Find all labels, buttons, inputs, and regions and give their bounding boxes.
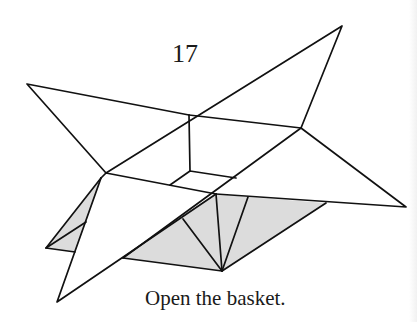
top-wing-edge (106, 26, 342, 173)
left-wing-edge (27, 84, 189, 173)
step-number: 17 (172, 41, 198, 67)
right-wing-edge (216, 128, 406, 207)
inner-back-corner (189, 115, 190, 171)
back-rim-edge (189, 115, 301, 128)
step-caption: Open the basket. (145, 288, 286, 309)
diagram-page: 17 Open the basket. (0, 0, 417, 322)
origami-basket-diagram (0, 0, 417, 322)
